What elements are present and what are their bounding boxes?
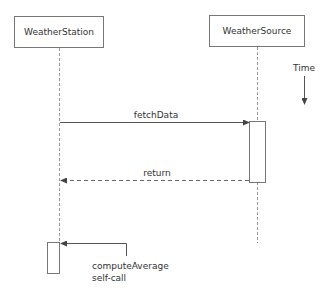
activation-weathersource: [250, 122, 266, 183]
message-return-label: return: [143, 168, 171, 178]
time-label: Time: [292, 63, 315, 73]
participant-weatherstation-label: WeatherStation: [24, 27, 94, 37]
activation-selfcall: [48, 243, 60, 274]
participant-weathersource-label: WeatherSource: [223, 26, 292, 36]
message-fetchdata-label: fetchData: [134, 110, 178, 120]
message-selfcall-arrow: [61, 244, 127, 257]
participant-weatherstation: WeatherStation: [15, 17, 104, 48]
message-selfcall-sublabel: self-call: [92, 273, 126, 283]
message-selfcall-label: computeAverage: [92, 261, 169, 271]
participant-weathersource: WeatherSource: [210, 16, 305, 47]
sequence-diagram: WeatherStation WeatherSource Time fetchD…: [0, 0, 325, 291]
